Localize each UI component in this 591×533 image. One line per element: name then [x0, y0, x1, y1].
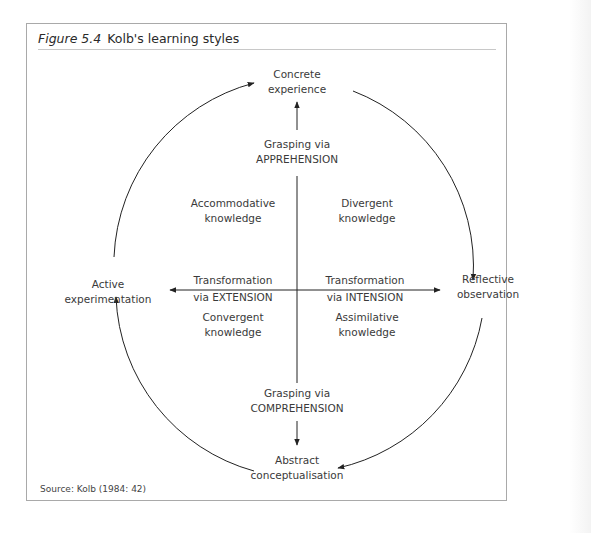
label-line: conceptualisation — [237, 468, 357, 483]
quadrant-convergent-knowledge: Convergent knowledge — [183, 310, 283, 340]
pole-abstract-conceptualisation: Abstract conceptualisation — [237, 453, 357, 483]
label-line: via EXTENSION — [183, 290, 283, 305]
label-line: Reflective — [448, 272, 528, 287]
label-line: observation — [448, 287, 528, 302]
label-line: knowledge — [183, 211, 283, 226]
label-line: Accommodative — [183, 196, 283, 211]
label-line: Transformation — [183, 273, 283, 288]
label-line: knowledge — [183, 325, 283, 340]
label-line: Assimilative — [317, 310, 417, 325]
grasping-comprehension-label: Grasping via COMPREHENSION — [232, 386, 362, 416]
label-line: Divergent — [317, 196, 417, 211]
label-line: knowledge — [317, 325, 417, 340]
pole-reflective-observation: Reflective observation — [448, 272, 528, 302]
quadrant-assimilative-knowledge: Assimilative knowledge — [317, 310, 417, 340]
label-line: via INTENSION — [315, 290, 415, 305]
label-line: COMPREHENSION — [232, 401, 362, 416]
label-line: experience — [247, 82, 347, 97]
quadrant-accommodative-knowledge: Accommodative knowledge — [183, 196, 283, 226]
arc-active-to-concrete — [114, 83, 254, 257]
grasping-apprehension-label: Grasping via APPREHENSION — [237, 137, 357, 167]
label-line: Convergent — [183, 310, 283, 325]
figure-source: Source: Kolb (1984: 42) — [40, 484, 146, 494]
label-line: knowledge — [317, 211, 417, 226]
label-line: Transformation — [315, 273, 415, 288]
arc-concrete-to-reflective — [353, 91, 473, 280]
label-line: Active — [58, 277, 158, 292]
transformation-extension-label: Transformation via EXTENSION — [183, 273, 283, 305]
label-line: experimentation — [58, 292, 158, 307]
label-line: Abstract — [237, 453, 357, 468]
label-line: Grasping via — [237, 137, 357, 152]
label-line: Grasping via — [232, 386, 362, 401]
transformation-intension-label: Transformation via INTENSION — [315, 273, 415, 305]
quadrant-divergent-knowledge: Divergent knowledge — [317, 196, 417, 226]
pole-concrete-experience: Concrete experience — [247, 67, 347, 97]
label-line: Concrete — [247, 67, 347, 82]
label-line: APPREHENSION — [237, 152, 357, 167]
pole-active-experimentation: Active experimentation — [58, 277, 158, 307]
